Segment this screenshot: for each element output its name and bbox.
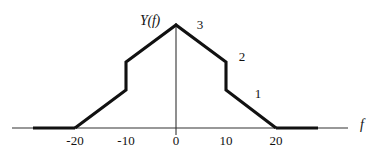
level-annotation-3: 3 (197, 18, 204, 31)
x-tick-label-minus10: -10 (117, 134, 134, 147)
x-tick-label-10: 10 (220, 134, 233, 147)
x-tick-label-zero: 0 (173, 134, 180, 147)
x-tick-label-minus20: -20 (66, 134, 83, 147)
y-axis-title: Y(f) (140, 14, 160, 28)
x-axis-title: f (360, 118, 364, 132)
level-annotation-1: 1 (255, 87, 262, 100)
x-tick-label-20: 20 (270, 134, 283, 147)
level-annotation-2: 2 (239, 50, 246, 63)
spectrum-figure: Y(f) f -20 -10 0 10 20 3 2 1 (0, 0, 382, 165)
plot-canvas (0, 0, 382, 165)
